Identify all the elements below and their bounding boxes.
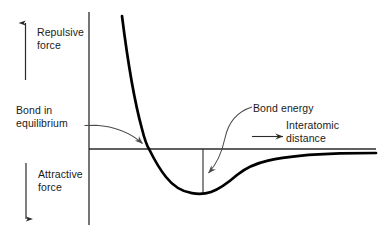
bond-in-equilibrium-label: Bond in equilibrium	[16, 104, 68, 130]
force-distance-diagram: Repulsive force Attractive force Bond in…	[0, 0, 380, 233]
interatomic-distance-label: Interatomic distance	[286, 119, 339, 145]
interatomic-force-curve	[122, 16, 376, 194]
bond-energy-label: Bond energy	[253, 102, 314, 115]
attractive-force-label: Attractive force	[38, 168, 83, 194]
equilibrium-leader-line	[85, 125, 143, 143]
repulsive-force-label: Repulsive force	[37, 26, 84, 52]
bond-energy-leader-line	[209, 107, 253, 173]
